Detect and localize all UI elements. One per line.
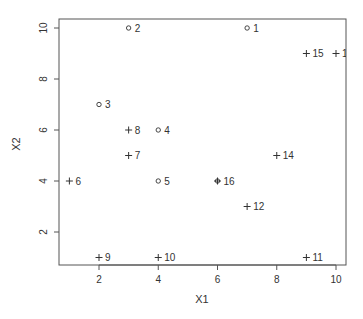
x-axis: 246810 [96,265,342,285]
scatter-plot: 246810 246810 1234567891011121415116 X1 … [0,0,363,319]
y-tick-label: 2 [38,229,49,235]
x-tick-label: 10 [330,274,342,285]
point-label: 1 [253,23,259,34]
y-tick-label: 4 [38,178,49,184]
plus-marker [125,127,132,134]
point-label: 16 [224,176,236,187]
point-label: 10 [164,252,176,263]
plus-marker [273,152,280,159]
data-points: 1234567891011121415116 [66,23,348,264]
x-tick-label: 4 [155,274,161,285]
point-label: 2 [135,23,141,34]
plus-marker [66,178,73,185]
point-label: 8 [135,125,141,136]
point-label: 3 [105,99,111,110]
circle-marker [156,128,160,132]
y-axis: 246810 [38,22,59,235]
y-tick-label: 8 [38,76,49,82]
plus-marker [303,254,310,261]
point-label: 4 [164,125,170,136]
plus-marker [214,178,221,185]
plot-frame [59,19,346,265]
x-tick-label: 6 [215,274,221,285]
point-label: 5 [164,176,170,187]
plus-marker [96,254,103,261]
point-label: 11 [312,252,323,263]
point-label: 6 [75,176,81,187]
plus-marker [333,50,340,57]
plus-marker [125,152,132,159]
plus-marker [244,203,251,210]
x-tick-label: 8 [274,274,280,285]
x-axis-label: X1 [195,293,208,305]
point-label: 12 [253,201,265,212]
circle-marker [245,26,249,30]
plus-marker [155,254,162,261]
x-tick-label: 2 [96,274,102,285]
y-axis-label: X2 [10,137,22,150]
point-label: 9 [105,252,111,263]
point-label: 1 [342,48,348,59]
plus-marker [303,50,310,57]
y-tick-label: 6 [38,127,49,133]
y-tick-label: 10 [38,22,49,34]
point-label: 14 [283,150,295,161]
circle-marker [97,102,101,106]
point-label: 7 [135,150,141,161]
point-label: 15 [312,48,324,59]
circle-marker [156,179,160,183]
circle-marker [126,26,130,30]
